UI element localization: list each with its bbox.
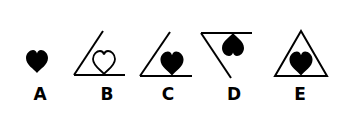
filled-heart-icon (26, 50, 48, 73)
option-a-label: A (28, 84, 52, 104)
option-d-label: D (222, 84, 246, 104)
outline-heart-icon (93, 51, 115, 74)
filled-heart-icon (289, 51, 312, 75)
option-c-figure (140, 32, 192, 76)
option-d-figure (201, 33, 252, 78)
filled-heart-icon (160, 51, 183, 75)
option-b-label: B (95, 84, 119, 104)
option-e-figure (275, 31, 327, 76)
option-c-label: C (156, 84, 180, 104)
option-b-figure (74, 31, 125, 75)
inverted-filled-heart-icon (222, 33, 244, 56)
option-e-label: E (288, 84, 312, 104)
option-a-figure (26, 50, 48, 73)
